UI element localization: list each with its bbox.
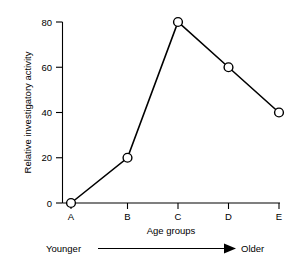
x-axis-tick-labels: A B C D E <box>68 211 282 222</box>
x-tick-label-b: B <box>124 211 130 222</box>
y-tick-label-20: 20 <box>41 152 52 163</box>
y-axis-ticks <box>56 22 63 203</box>
direction-arrow-head-icon <box>224 244 236 254</box>
x-tick-label-e: E <box>276 211 282 222</box>
chart-figure: 80 60 40 20 0 A B C D E <box>0 0 286 263</box>
y-tick-label-0: 0 <box>47 198 52 209</box>
data-point-d <box>224 63 233 72</box>
older-label: Older <box>241 243 264 254</box>
age-direction-annotation: Younger Older <box>46 243 264 254</box>
y-axis-title: Relative investigatory activity <box>22 51 33 173</box>
data-point-a <box>67 199 76 208</box>
axis-lines <box>63 22 281 203</box>
younger-label: Younger <box>46 243 81 254</box>
y-axis-tick-labels: 80 60 40 20 0 <box>41 17 52 209</box>
y-tick-label-60: 60 <box>41 62 52 73</box>
data-series-line <box>71 22 279 203</box>
x-tick-label-a: A <box>68 211 75 222</box>
data-point-markers <box>67 18 284 208</box>
x-tick-label-c: C <box>175 211 182 222</box>
data-point-e <box>275 108 284 117</box>
x-axis-ticks <box>71 203 279 209</box>
data-point-c <box>174 18 183 27</box>
x-tick-label-d: D <box>225 211 232 222</box>
line-chart-canvas: 80 60 40 20 0 A B C D E <box>0 0 286 263</box>
x-axis-title: Age groups <box>147 225 196 236</box>
data-point-b <box>123 153 132 162</box>
y-tick-label-80: 80 <box>41 17 52 28</box>
y-tick-label-40: 40 <box>41 107 52 118</box>
